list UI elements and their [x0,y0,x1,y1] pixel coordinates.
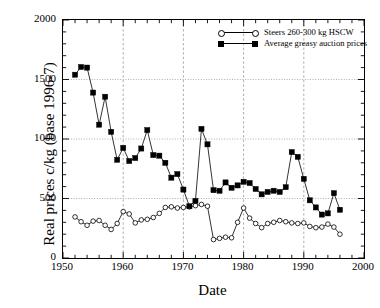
data-point [326,222,331,227]
data-point [313,205,318,210]
filled-square-marker-icon [216,38,260,49]
x-tick-label-1970: 1970 [159,261,205,272]
data-point [91,219,96,224]
data-point [103,223,108,228]
data-point [301,176,306,181]
data-point [265,189,270,194]
data-point [145,217,150,222]
data-point [91,90,96,95]
data-point [338,232,343,237]
y-tick-label-1500: 1500 [16,73,56,84]
data-point [151,152,156,157]
data-point [109,129,114,134]
data-point [163,205,168,210]
data-series-layer [72,64,342,241]
plot-area [62,19,365,259]
data-point [73,215,78,220]
data-point [271,220,276,225]
data-point [205,204,210,209]
data-point [247,216,252,221]
data-point [289,221,294,226]
data-point [85,223,90,228]
data-point [223,180,228,185]
y-tick-label-2000: 2000 [16,13,56,24]
data-point [319,212,324,217]
data-point [121,145,126,150]
data-point [229,235,234,240]
data-point [115,157,120,162]
gridlines [63,20,364,258]
chart-canvas [63,20,364,258]
data-point [265,221,270,226]
data-point [241,206,246,211]
data-point [72,72,77,77]
data-point [211,188,216,193]
data-point [253,186,258,191]
x-tick-label-1960: 1960 [99,261,145,272]
data-point [115,221,120,226]
data-point [235,220,240,225]
data-point [295,221,300,226]
data-point [271,188,276,193]
data-point [109,227,114,232]
data-point [314,225,319,230]
data-point [283,185,288,190]
data-point [103,94,108,99]
data-point [133,155,138,160]
data-point [199,202,204,207]
data-point [331,191,336,196]
legend-entry-steers: Steers 260-300 kg HSCW [216,27,367,38]
open-circle-marker-icon [216,27,260,38]
data-point [79,219,84,224]
data-point [307,198,312,203]
legend-entry-auction: Average greasy auction prices [216,38,367,49]
legend-label-auction: Average greasy auction prices [260,38,367,49]
legend-label-steers: Steers 260-300 kg HSCW [260,27,354,38]
data-point [308,224,313,229]
data-point [157,153,162,158]
data-point [289,149,294,154]
data-point [169,205,174,210]
data-point [139,146,144,151]
y-axis-title-text: Real prices c/kg (base 1996-7) [41,62,58,245]
x-axis-title: Date [62,282,363,299]
y-tick-label-500: 500 [16,192,56,203]
data-point [193,198,198,203]
data-point [181,205,186,210]
data-point [199,126,204,131]
data-point [151,215,156,220]
data-point [205,142,210,147]
data-point [302,221,307,226]
x-tick-label-2000: 2000 [340,261,380,272]
data-point [175,172,180,177]
data-point [241,179,246,184]
data-point [253,221,258,226]
data-point [145,127,150,132]
y-tick-label-1000: 1000 [16,132,56,143]
data-point [259,225,264,230]
data-point [229,185,234,190]
series-line-1 [75,67,340,215]
data-point [320,225,325,230]
data-point [235,183,240,188]
data-point [181,187,186,192]
data-point [157,211,162,216]
x-tick-label-1980: 1980 [220,261,266,272]
data-point [84,65,89,70]
data-point [127,158,132,163]
data-point [211,237,216,242]
data-point [325,211,330,216]
data-point [332,225,337,230]
data-point [97,122,102,127]
data-point [223,235,228,240]
data-point [169,175,174,180]
data-point [337,207,342,212]
data-point [97,218,102,223]
data-point [139,218,144,223]
data-point [187,204,192,209]
data-point [295,154,300,159]
chart-figure: Real prices c/kg (base 1996-7) 2000 1500… [0,0,380,308]
x-tick-label-1950: 1950 [39,261,85,272]
data-point [121,209,126,214]
data-point [193,203,198,208]
